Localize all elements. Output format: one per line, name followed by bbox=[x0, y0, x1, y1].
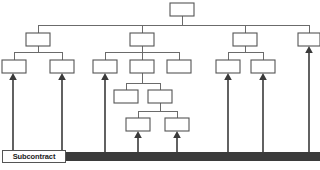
node-box-level4[interactable] bbox=[114, 90, 138, 103]
connector-group-branch-left bbox=[14, 46, 62, 60]
node-box-level3[interactable] bbox=[130, 60, 154, 73]
node-box-level2[interactable] bbox=[233, 33, 257, 46]
supply-arrow-head bbox=[224, 73, 232, 80]
node-box-group bbox=[2, 3, 320, 131]
supply-arrow-head bbox=[9, 73, 17, 80]
node-box-level5[interactable] bbox=[126, 118, 150, 131]
node-box-level4[interactable] bbox=[148, 90, 172, 103]
node-box-level3[interactable] bbox=[2, 60, 26, 73]
node-box-level2[interactable] bbox=[26, 33, 50, 46]
node-box-level5[interactable] bbox=[165, 118, 189, 131]
connector-group-root bbox=[38, 16, 309, 33]
node-box-level3[interactable] bbox=[50, 60, 74, 73]
node-box-level3[interactable] bbox=[216, 60, 240, 73]
node-box-level2[interactable] bbox=[130, 33, 154, 46]
supply-arrow-head bbox=[101, 73, 109, 80]
supply-arrow-head bbox=[305, 46, 313, 53]
supply-arrow-head bbox=[259, 73, 267, 80]
node-box-level3[interactable] bbox=[93, 60, 117, 73]
wbs-diagram-svg bbox=[0, 0, 320, 170]
node-box-level2[interactable] bbox=[298, 33, 320, 46]
connector-group-branch-middle bbox=[105, 46, 179, 60]
wbs-diagram: Subcontract bbox=[0, 0, 320, 170]
supply-arrow-head bbox=[58, 73, 66, 80]
connector-group-branch-level4 bbox=[126, 73, 160, 90]
node-box-level3[interactable] bbox=[167, 60, 191, 73]
node-box-root[interactable] bbox=[170, 3, 194, 16]
subcontract-label: Subcontract bbox=[2, 150, 66, 163]
supply-arrow-head bbox=[173, 131, 181, 138]
connector-group-branch-level5 bbox=[138, 103, 177, 118]
supply-arrow-head bbox=[134, 131, 142, 138]
connector-group-branch-right bbox=[228, 46, 263, 60]
node-box-level3[interactable] bbox=[251, 60, 275, 73]
